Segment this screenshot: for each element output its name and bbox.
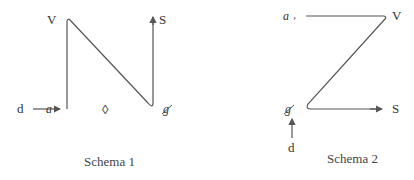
schema1-diamond-symbol: ◊: [102, 102, 109, 117]
schema1-label-v: V: [47, 12, 57, 27]
schema2-z-path: [306, 16, 386, 109]
schema2-label-s: S: [392, 101, 399, 116]
schema1-n-path: [67, 19, 153, 109]
schema2-small-arrowhead: ›: [293, 12, 296, 22]
diagram-canvas: V S d a ◊ g Schema 1 a › V g S d Schema …: [0, 0, 414, 180]
schema-1: V S d a ◊ g Schema 1: [17, 12, 172, 169]
schema1-caption: Schema 1: [84, 154, 135, 169]
schema-2: a › V g S d Schema 2: [283, 8, 402, 166]
schema1-label-a: a: [46, 102, 52, 116]
schema2-caption: Schema 2: [327, 151, 378, 166]
schema2-label-d: d: [288, 140, 295, 155]
schema1-label-d: d: [17, 101, 24, 116]
schema2-label-v: V: [392, 8, 402, 23]
schema1-label-s: S: [159, 12, 166, 27]
schema2-label-a: a: [283, 9, 289, 23]
